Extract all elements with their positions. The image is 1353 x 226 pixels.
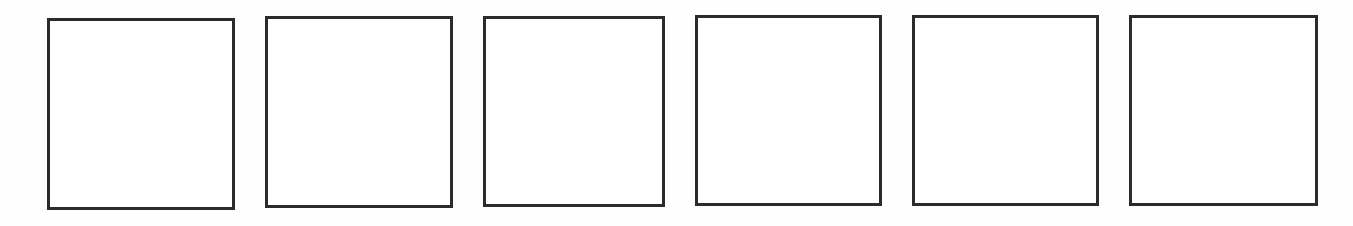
empty-box-3 — [483, 16, 665, 207]
empty-box-1 — [47, 18, 235, 210]
empty-box-2 — [265, 16, 453, 208]
worksheet-page — [0, 0, 1353, 226]
empty-box-5 — [912, 15, 1099, 206]
empty-box-4 — [695, 15, 882, 206]
empty-box-6 — [1129, 15, 1318, 206]
